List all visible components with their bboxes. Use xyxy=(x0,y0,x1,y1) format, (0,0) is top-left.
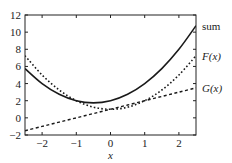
chart: −2−1012−2024681012 sum F(x) G(x) x xyxy=(0,0,232,163)
tick-label: 4 xyxy=(16,78,22,90)
tick-label: 6 xyxy=(16,60,22,72)
tick-label: 12 xyxy=(10,9,21,21)
tick-label: 0 xyxy=(16,112,22,124)
series-gx xyxy=(25,88,196,131)
plot-frame xyxy=(25,15,196,135)
tick-label: 1 xyxy=(142,137,148,149)
tick-label: 0 xyxy=(108,137,114,149)
series-sum xyxy=(25,26,196,103)
tick-label: −2 xyxy=(9,129,21,141)
tick-label: 8 xyxy=(16,43,22,55)
plot-curves xyxy=(25,26,196,131)
tick-label: 10 xyxy=(10,26,22,38)
x-axis-label: x xyxy=(107,149,113,161)
legend-sum: sum xyxy=(202,20,221,32)
tick-label: −2 xyxy=(36,137,48,149)
legend-g: G(x) xyxy=(202,82,222,95)
tick-label: 2 xyxy=(16,95,22,107)
tick-label: −1 xyxy=(70,137,82,149)
tick-label: 2 xyxy=(176,137,182,149)
legend-f: F(x) xyxy=(201,50,221,63)
